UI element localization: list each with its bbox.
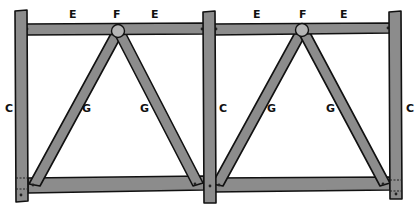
post-middle [203, 11, 216, 203]
brace-left-b [114, 30, 203, 186]
bolt [218, 184, 221, 187]
bottom-rail-left [28, 176, 204, 193]
label-e: E [151, 8, 159, 21]
bolt [32, 184, 35, 187]
bolt [194, 183, 197, 186]
label-g: G [82, 102, 91, 115]
label-e: E [340, 8, 348, 21]
label-c: C [406, 102, 414, 115]
label-g: G [326, 102, 335, 115]
hub-right [296, 24, 309, 37]
bottom-rail-right [212, 177, 390, 192]
bolt [382, 183, 385, 186]
label-f: F [113, 8, 121, 21]
brace-left-a [29, 30, 123, 186]
label-c: C [5, 102, 13, 115]
right-panel [212, 23, 392, 192]
label-g: G [267, 102, 276, 115]
post-left [15, 10, 28, 202]
post-right [389, 11, 402, 199]
brace-right-b [298, 29, 390, 186]
label-e: E [253, 8, 261, 21]
label-g: G [140, 102, 149, 115]
label-c: C [219, 102, 227, 115]
hub-left [112, 25, 125, 38]
left-panel [25, 23, 205, 193]
label-e: E [69, 8, 77, 21]
label-f: F [299, 8, 307, 21]
gate-frame-diagram: E F E E F E C C C G G G G [0, 0, 420, 212]
